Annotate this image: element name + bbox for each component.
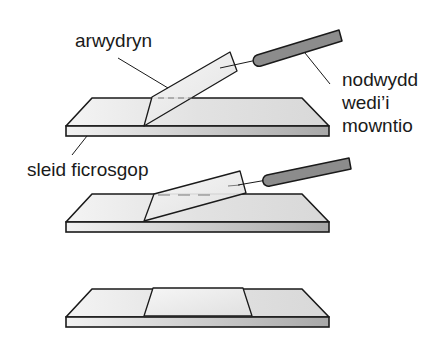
- label-coverslip-text: arwydryn: [75, 30, 152, 51]
- mounted-needle-1: [220, 30, 342, 68]
- label-slide-text: sleid ficrosgop: [27, 159, 148, 180]
- label-needle-line-3: mowntio: [342, 115, 413, 136]
- label-needle-line-2: wedi’i: [341, 92, 390, 113]
- label-slide: sleid ficrosgop: [27, 136, 148, 180]
- mounted-needle-2: [238, 158, 351, 186]
- microscope-slide-1: [66, 98, 329, 136]
- label-coverslip: arwydryn: [75, 30, 168, 88]
- diagram-canvas: arwydryn nodwydd wedi’i mowntio sleid fi…: [0, 0, 444, 349]
- step-3: [66, 288, 329, 327]
- coverslip-3: [144, 288, 252, 317]
- label-needle-line-1: nodwydd: [342, 69, 418, 90]
